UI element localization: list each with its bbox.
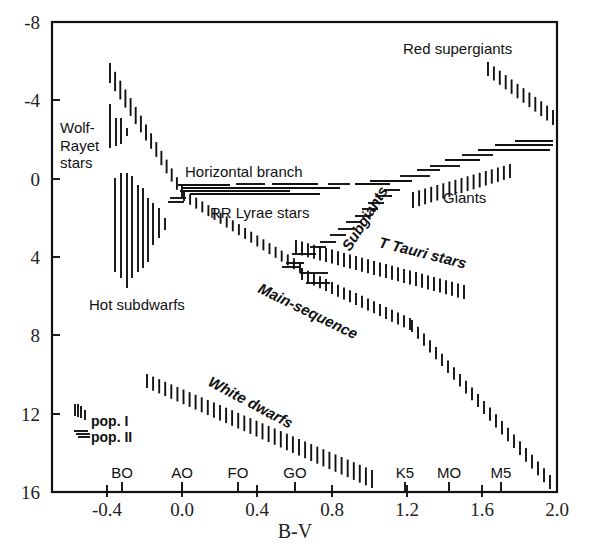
label-hot-subdwarfs: Hot subdwarfs [89, 296, 185, 313]
spectral-type-label: MO [437, 464, 461, 481]
label-t-tauri: T Tauri stars [377, 233, 468, 271]
x-tick-label: 1.2 [395, 499, 419, 520]
y-tick-label: 8 [31, 325, 41, 346]
label-wolf-rayet-3: stars [60, 154, 93, 171]
spectral-type-label: BO [111, 464, 133, 481]
x-tick-label: 0.8 [320, 499, 344, 520]
spectral-type-label: M5 [491, 464, 512, 481]
legend-pop2-label: pop. II [91, 429, 132, 445]
star-region-bands [110, 62, 553, 489]
y-tick-label: 16 [21, 482, 40, 503]
band-hot-subdwarfs [115, 173, 165, 288]
x-tick-label: -0.4 [92, 499, 123, 520]
label-wolf-rayet-2: Rayet [60, 137, 100, 154]
label-rr-lyrae: RR Lyrae stars [210, 204, 309, 221]
y-tick-label: 12 [21, 404, 40, 425]
y-tick-label: -8 [24, 12, 40, 33]
spectral-type-label: FO [228, 464, 249, 481]
x-tick-label: 2.0 [545, 499, 569, 520]
y-tick-label: -4 [24, 90, 40, 111]
label-red-supergiants: Red supergiants [403, 40, 512, 57]
x-axis-title: B-V [278, 520, 313, 542]
label-wolf-rayet-1: Wolf- [60, 119, 95, 136]
band-main-sequence-red [412, 320, 550, 489]
x-tick-label: 0.4 [245, 499, 269, 520]
label-horizontal-branch: Horizontal branch [185, 163, 303, 180]
spectral-type-ticks: BOAOFOGOK5MOM5 [111, 464, 511, 492]
spectral-type-label: K5 [396, 464, 414, 481]
spectral-type-label: GO [283, 464, 306, 481]
x-axis-ticks: -0.40.00.40.81.21.62.0 [92, 485, 569, 520]
spectral-type-label: AO [171, 464, 193, 481]
pop2-horizontal-hatch-icon [74, 431, 90, 437]
hr-diagram: -8-40481216 -0.40.00.40.81.21.62.0 BOAOF… [0, 0, 592, 551]
band-red-supergiants [488, 62, 553, 125]
pop1-vertical-hatch-icon [75, 404, 85, 420]
label-giants: Giants [443, 189, 486, 206]
band-main-sequence-mid [184, 190, 300, 273]
x-tick-label: 0.0 [170, 499, 194, 520]
x-tick-label: 1.6 [470, 499, 494, 520]
y-tick-label: 0 [31, 169, 41, 190]
y-axis-ticks: -8-40481216 [21, 12, 60, 503]
y-tick-label: 4 [31, 247, 41, 268]
legend: pop. I pop. II [74, 404, 132, 445]
legend-pop1-label: pop. I [91, 413, 128, 429]
